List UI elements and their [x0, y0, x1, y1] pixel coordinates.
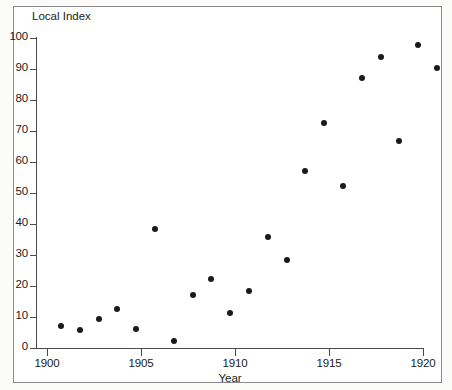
data-point: [227, 310, 233, 316]
y-axis-tick: [30, 38, 37, 39]
y-axis-tick-label: 90: [0, 61, 28, 73]
x-axis-tick: [423, 349, 424, 356]
y-axis-tick: [30, 286, 37, 287]
data-point: [77, 327, 83, 333]
y-axis-tick: [30, 69, 37, 70]
y-axis-tick-label: 40: [0, 216, 28, 228]
data-point: [415, 42, 421, 48]
data-point: [359, 75, 365, 81]
data-point: [114, 306, 120, 312]
x-axis-tick: [329, 349, 330, 356]
y-axis-tick: [30, 348, 37, 349]
y-axis-tick-label: 30: [0, 247, 28, 259]
data-point: [246, 288, 252, 294]
data-point: [58, 323, 64, 329]
x-axis-tick-label: 1920: [401, 357, 445, 369]
data-point: [396, 138, 402, 144]
chart-frame: [13, 6, 442, 383]
data-point: [152, 226, 158, 232]
x-axis-tick: [141, 349, 142, 356]
x-axis-line: [36, 348, 424, 349]
data-point: [321, 120, 327, 126]
y-axis-tick: [30, 100, 37, 101]
data-point: [434, 65, 440, 71]
data-point: [133, 326, 139, 332]
y-axis-tick-label: 50: [0, 185, 28, 197]
data-point: [190, 292, 196, 298]
y-axis-title: Local Index: [32, 10, 91, 22]
y-axis-tick: [30, 224, 37, 225]
plot-area: [14, 7, 441, 382]
data-point: [378, 54, 384, 60]
x-axis-tick: [47, 349, 48, 356]
data-point: [96, 316, 102, 322]
data-point: [171, 338, 177, 344]
y-axis-tick-label: 60: [0, 154, 28, 166]
data-point: [208, 276, 214, 282]
y-axis-tick: [30, 317, 37, 318]
x-axis-tick-label: 1905: [119, 357, 163, 369]
data-point: [302, 168, 308, 174]
data-point: [284, 257, 290, 263]
y-axis-tick: [30, 193, 37, 194]
x-axis-tick-label: 1900: [25, 357, 69, 369]
x-axis-tick-label: 1915: [307, 357, 351, 369]
data-point: [265, 234, 271, 240]
y-axis-tick: [30, 255, 37, 256]
x-axis-tick-label: 1910: [213, 357, 257, 369]
y-axis-tick-label: 20: [0, 278, 28, 290]
chart-page: 0102030405060708090100190019051910191519…: [0, 0, 452, 390]
y-axis-tick-label: 70: [0, 123, 28, 135]
y-axis-tick-label: 80: [0, 92, 28, 104]
y-axis-tick-label: 0: [0, 340, 28, 352]
y-axis-tick: [30, 162, 37, 163]
y-axis-tick-label: 10: [0, 309, 28, 321]
x-axis-tick: [235, 349, 236, 356]
y-axis-tick-label: 100: [0, 30, 28, 42]
data-point: [340, 183, 346, 189]
x-axis-title: Year: [36, 372, 424, 384]
y-axis-tick: [30, 131, 37, 132]
